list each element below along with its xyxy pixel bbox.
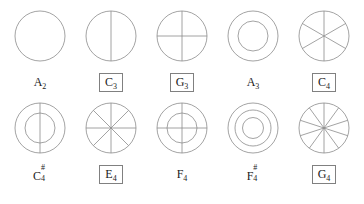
figure-label-F4: F4 bbox=[171, 165, 194, 184]
figure-cell-G3: G3 bbox=[148, 6, 216, 92]
diagram-two-concentric-circles-vertical-diameter bbox=[10, 98, 70, 158]
figure-cell-E4: E4 bbox=[77, 98, 145, 184]
label-subscript: 4 bbox=[41, 175, 45, 183]
diagram-two-concentric-circles bbox=[223, 6, 283, 66]
figure-label-C3: C3 bbox=[99, 73, 123, 92]
diagram-circle-eight-sectors bbox=[81, 98, 141, 158]
circle-ring-2 bbox=[235, 110, 271, 146]
figure-cell-F4: F4 bbox=[148, 98, 216, 184]
diagram-circle-ten-sectors bbox=[294, 98, 354, 158]
circle-ring-1 bbox=[228, 11, 278, 61]
figure-label-C4: C4 bbox=[312, 73, 336, 92]
diagram-circle-vertical-diameter bbox=[81, 6, 141, 66]
figure-label-C4sharp: C#4 bbox=[27, 165, 53, 186]
diagram-three-concentric-circles bbox=[223, 98, 283, 158]
label-subscript: 2 bbox=[42, 82, 46, 91]
figure-label-E4: E4 bbox=[99, 165, 122, 184]
label-subscript: 3 bbox=[255, 82, 259, 91]
label-subscript: 4 bbox=[326, 174, 330, 183]
figure-label-G4: G4 bbox=[312, 165, 337, 184]
figure-cell-C3: C3 bbox=[77, 6, 145, 92]
label-subscript: 4 bbox=[183, 174, 187, 183]
figure-cell-G4: G4 bbox=[290, 98, 358, 184]
label-sup-sub-stack: #4 bbox=[253, 168, 259, 180]
circle-ring-3 bbox=[243, 118, 264, 139]
diagram-circle-cross bbox=[152, 6, 212, 66]
figure-row-top: A2C3G3A3C4 bbox=[0, 0, 364, 92]
circle-ring-1 bbox=[228, 103, 278, 153]
diagram-two-concentric-circles-cross bbox=[152, 98, 212, 158]
label-subscript: 4 bbox=[326, 82, 330, 91]
figure-cell-A3: A3 bbox=[219, 6, 287, 92]
figure-row-bottom: C#4E4F4F#4G4 bbox=[0, 92, 364, 186]
label-sup-sub-stack: #4 bbox=[41, 168, 47, 180]
label-superscript: # bbox=[253, 164, 257, 172]
circle-ring-2 bbox=[238, 21, 268, 51]
label-subscript: 3 bbox=[113, 82, 117, 91]
label-letter: E bbox=[105, 167, 112, 181]
label-letter: C bbox=[33, 169, 41, 183]
figure-label-A3: A3 bbox=[241, 73, 266, 92]
figure-cell-C4: C4 bbox=[290, 6, 358, 92]
label-superscript: # bbox=[41, 164, 45, 172]
label-letter: F bbox=[247, 169, 254, 183]
label-letter: C bbox=[105, 75, 113, 89]
label-subscript: 4 bbox=[253, 175, 257, 183]
figure-label-A2: A2 bbox=[28, 73, 53, 92]
figure-cell-F4sharp: F#4 bbox=[219, 98, 287, 186]
figure-label-F4sharp: F#4 bbox=[241, 165, 266, 186]
diagram-circle-six-sectors bbox=[294, 6, 354, 66]
label-letter: C bbox=[318, 75, 326, 89]
label-subscript: 3 bbox=[184, 82, 188, 91]
figure-sheet: A2C3G3A3C4 C#4E4F4F#4G4 bbox=[0, 0, 364, 204]
figure-cell-A2: A2 bbox=[6, 6, 74, 92]
diagram-plain-circle bbox=[10, 6, 70, 66]
figure-label-G3: G3 bbox=[170, 73, 195, 92]
label-subscript: 4 bbox=[113, 174, 117, 183]
circle-ring-1 bbox=[15, 11, 65, 61]
figure-cell-C4sharp: C#4 bbox=[6, 98, 74, 186]
